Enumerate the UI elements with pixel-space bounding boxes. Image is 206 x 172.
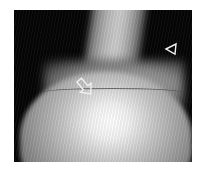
open-arrowhead-icon [164,42,178,56]
open-arrow-icon [74,76,96,98]
curved-line [42,88,182,97]
medical-image-frame [14,10,192,162]
